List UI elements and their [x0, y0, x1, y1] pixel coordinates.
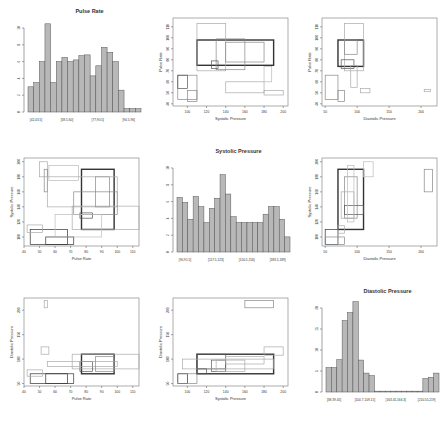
scatter-panel: 100120140160180200405060708090100110Syst…: [149, 0, 298, 140]
x-tick-label: 100: [354, 250, 360, 254]
x-tick-label: 200: [418, 250, 424, 254]
y-tick-label: 20: [315, 306, 319, 310]
data-rectangle: [338, 169, 364, 229]
y-tick-label: 200: [17, 307, 21, 313]
data-rectangle: [344, 177, 357, 218]
histogram-bar: [252, 223, 257, 252]
x-axis-label: Diastolic Pressure: [363, 116, 396, 121]
histogram-bar: [39, 62, 45, 112]
histogram-bar: [96, 66, 102, 112]
y-tick-label: 160: [17, 189, 21, 195]
x-axis-label: Diastolic Pressure: [363, 256, 396, 261]
y-tick-label: 100: [315, 234, 319, 240]
x-tick-label: 100: [114, 250, 120, 254]
data-rectangle: [344, 40, 357, 54]
x-tick-label: 160: [242, 390, 248, 394]
plot-frame: [322, 158, 437, 246]
histogram-bar: [231, 217, 236, 252]
scatter-panel: 10012014016018020050100150200Systolic Pr…: [149, 280, 298, 420]
x-tick-label: [150.5,156]: [239, 258, 255, 262]
y-tick-label: 2: [166, 234, 170, 236]
y-tick-label: 2: [17, 94, 21, 96]
histogram-bar: [113, 62, 119, 112]
histogram-bar: [209, 208, 214, 252]
y-tick-label: 5: [315, 370, 319, 372]
y-tick-label: 50: [166, 91, 170, 95]
x-axis-label: Pulse Rate: [72, 396, 92, 401]
y-tick-label: 180: [17, 174, 21, 180]
y-tick-label: 200: [315, 159, 319, 165]
y-tick-label: 4: [166, 217, 170, 219]
data-rectangle: [216, 360, 245, 371]
scatter-panel: 50100150200100120140160180200Diastolic P…: [298, 140, 447, 280]
y-tick-label: 200: [17, 159, 21, 165]
y-tick-label: 160: [315, 189, 319, 195]
histogram-bar: [182, 202, 187, 252]
y-tick-label: 100: [17, 356, 21, 362]
x-tick-label: 60: [53, 390, 57, 394]
y-tick-label: 150: [17, 332, 21, 338]
histogram-bar: [56, 62, 62, 112]
y-axis-label: Systolic Pressure: [307, 186, 312, 218]
x-tick-label: 40: [22, 390, 26, 394]
histogram-bar: [135, 109, 141, 112]
data-rectangle: [325, 237, 344, 245]
x-tick-label: 150: [386, 110, 392, 114]
scatter-panel: 405060708090100110100120140160180200Puls…: [0, 140, 149, 280]
x-tick-label: [163.45,166.3]: [386, 398, 406, 402]
y-tick-label: 40: [315, 102, 319, 106]
x-tick-label: 200: [418, 110, 424, 114]
x-tick-label: 180: [261, 390, 267, 394]
y-tick-label: 6: [166, 200, 170, 202]
y-tick-label: 6: [17, 60, 21, 62]
x-tick-label: 150: [386, 250, 392, 254]
data-rectangle: [47, 362, 117, 367]
histogram-panel: Pulse Rate0246810[42,43.5][58.5,60][77,9…: [0, 0, 149, 140]
y-tick-label: 110: [166, 24, 170, 30]
data-rectangle: [46, 237, 74, 245]
y-tick-label: 80: [166, 58, 170, 62]
data-rectangle: [178, 374, 188, 384]
data-rectangle: [348, 166, 354, 222]
histogram-bar: [247, 223, 252, 252]
histogram-bar: [374, 391, 379, 392]
x-tick-label: [117.5,123]: [208, 258, 224, 262]
histogram-bar: [358, 360, 363, 392]
x-tick-label: 140: [223, 110, 229, 114]
data-rectangle: [325, 75, 338, 99]
data-rectangle: [178, 75, 188, 88]
histogram-bar: [353, 302, 358, 392]
y-tick-label: 110: [315, 24, 319, 30]
histogram-bar: [45, 24, 51, 112]
x-tick-label: 110: [130, 390, 136, 394]
y-tick-label: 90: [166, 47, 170, 51]
x-tick-label: 80: [84, 250, 88, 254]
histogram-bar: [428, 377, 433, 392]
histogram-bar: [401, 391, 406, 392]
histogram-bar: [434, 373, 439, 392]
y-axis-label: Diastolic Pressure: [9, 325, 14, 358]
histogram-bar: [215, 198, 220, 252]
y-tick-label: 50: [17, 382, 21, 386]
data-rectangle: [49, 166, 79, 181]
y-tick-label: 60: [166, 80, 170, 84]
x-axis-label: Systolic Pressure: [215, 116, 247, 121]
data-rectangle: [338, 40, 364, 66]
data-rectangle: [424, 169, 432, 192]
y-tick-label: 50: [166, 382, 170, 386]
histogram-bar: [225, 194, 230, 252]
histogram-bar: [51, 83, 57, 112]
histogram-bar: [274, 207, 279, 252]
x-tick-label: [94.5,96]: [122, 118, 135, 122]
x-tick-label: [210.55,219]: [418, 398, 436, 402]
x-tick-label: [90,91.5]: [179, 258, 192, 262]
y-axis-label: Pulse Rate: [307, 51, 312, 71]
data-rectangle: [44, 169, 47, 192]
y-tick-label: 100: [166, 356, 170, 362]
x-tick-label: 180: [261, 110, 267, 114]
data-rectangle: [27, 225, 43, 233]
histogram-bar: [34, 83, 40, 112]
x-tick-label: 140: [223, 390, 229, 394]
panel-title: Pulse Rate: [75, 8, 103, 14]
histogram-bar: [331, 368, 336, 392]
